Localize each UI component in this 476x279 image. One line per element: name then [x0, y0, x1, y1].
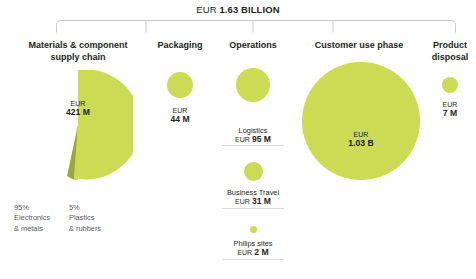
packaging-bubble	[167, 72, 193, 98]
column-title-disposal-line1: Product	[433, 40, 467, 50]
packaging-amount: 44 M	[170, 114, 189, 124]
materials-pie-chart: EUR 421 M	[23, 70, 133, 180]
philips-sites-value: Philips sites EUR 2 M	[213, 239, 293, 258]
logistics-amount: 95 M	[252, 134, 271, 144]
customer-use-phase-amount: 1.03 B	[348, 138, 373, 148]
materials-value: EUR 421 M	[23, 99, 133, 118]
business-travel-currency-label: EUR	[235, 198, 250, 205]
total-value-title: EUR 1.63 BILLION	[0, 4, 476, 15]
column-title-materials: Materials & component supply chain	[0, 40, 156, 63]
column-materials-supply-chain: Materials & component supply chain EUR 4…	[0, 40, 156, 63]
column-product-disposal: Product disposal EUR 7 M	[424, 40, 476, 63]
product-disposal-currency-label: EUR	[443, 101, 458, 108]
legend-electronics-line2: & metals	[14, 224, 43, 233]
materials-amount: 421 M	[66, 107, 90, 117]
operations-divider-1	[222, 145, 284, 146]
legend-electronics-percent: 95%	[14, 203, 69, 213]
logistics-currency-label: EUR	[235, 136, 250, 143]
operations-divider-3	[222, 259, 284, 260]
legend-plastics-percent: 5%	[69, 203, 129, 213]
business-travel-bubble	[244, 162, 263, 181]
value-chain-infographic: EUR 1.63 BILLION Materials & component s…	[0, 0, 476, 279]
packaging-value: EUR 44 M	[140, 106, 220, 125]
philips-sites-bubble	[250, 226, 257, 233]
column-title-packaging: Packaging	[140, 40, 220, 52]
operations-divider-2	[222, 208, 284, 209]
product-disposal-amount: 7 M	[443, 108, 457, 118]
column-title-materials-line1: Materials & component	[28, 40, 127, 50]
legend-electronics-line1: Electronics	[14, 213, 50, 222]
column-operations: Operations Logistics EUR 95 M Business T…	[213, 40, 293, 52]
column-packaging: Packaging EUR 44 M	[140, 40, 220, 52]
product-disposal-value: EUR 7 M	[424, 100, 476, 119]
legend-item-plastics: 5% Plastics & rubbers	[69, 203, 129, 234]
materials-currency-label: EUR	[71, 100, 86, 107]
philips-sites-amount: 2 M	[254, 247, 268, 257]
grouping-bracket	[55, 19, 457, 33]
customer-use-phase-value: EUR 1.03 B	[302, 130, 420, 149]
business-travel-value: Business Travel EUR 31 M	[213, 188, 293, 207]
legend-plastics-line1: Plastics	[69, 213, 94, 222]
legend-plastics-line2: & rubbers	[69, 224, 101, 233]
column-customer-use-phase: Customer use phase EUR 1.03 B	[294, 40, 424, 52]
total-amount: 1.63 BILLION	[219, 4, 279, 15]
column-title-customer-use-phase: Customer use phase	[294, 40, 424, 52]
total-currency-label: EUR	[196, 4, 216, 15]
business-travel-amount: 31 M	[252, 196, 271, 206]
column-title-product-disposal: Product disposal	[424, 40, 476, 63]
column-title-materials-line2: supply chain	[50, 52, 105, 62]
customer-use-phase-bubble	[302, 62, 420, 180]
packaging-currency-label: EUR	[173, 107, 188, 114]
column-title-operations: Operations	[213, 40, 293, 52]
column-title-disposal-line2: disposal	[432, 52, 469, 62]
materials-pie-legend: 95% Electronics & metals 5% Plastics & r…	[14, 203, 154, 234]
product-disposal-bubble	[442, 77, 458, 93]
logistics-value: Logistics EUR 95 M	[213, 126, 293, 145]
legend-item-electronics: 95% Electronics & metals	[14, 203, 69, 234]
philips-sites-currency-label: EUR	[237, 249, 252, 256]
customer-use-phase-currency-label: EUR	[354, 131, 369, 138]
logistics-bubble	[236, 68, 270, 102]
